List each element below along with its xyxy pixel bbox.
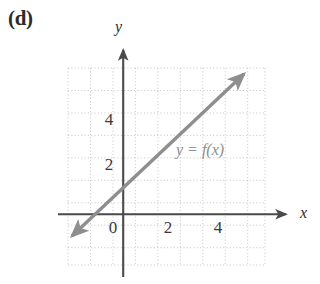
- x-tick-label-0: 0: [104, 218, 122, 238]
- x-tick-label-2: 2: [159, 218, 177, 238]
- coordinate-plot: [0, 0, 320, 284]
- figure-canvas: (d): [0, 0, 320, 284]
- y-tick-label-2: 2: [100, 155, 118, 175]
- x-tick-label-4: 4: [209, 218, 227, 238]
- x-axis-label: x: [300, 204, 307, 222]
- y-axis-label: y: [115, 18, 122, 36]
- y-tick-label-4: 4: [100, 110, 118, 130]
- function-annotation: y = f(x): [176, 141, 224, 159]
